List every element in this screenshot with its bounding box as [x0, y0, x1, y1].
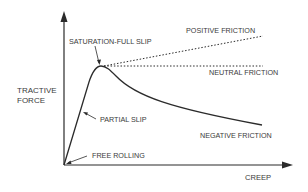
- saturation-label: SATURATION-FULL SLIP: [69, 38, 152, 45]
- x-axis-label: CREEP: [245, 174, 271, 182]
- free-rolling-leader-arrow-icon: [66, 161, 72, 165]
- neutral-friction-label: NEUTRAL FRICTION: [209, 69, 278, 76]
- y-axis-label-line1: TRACTIVE: [17, 86, 57, 96]
- y-axis-label: TRACTIVE FORCE: [17, 86, 57, 106]
- partial-slip-leader-arrow-icon: [83, 112, 88, 116]
- y-axis-arrow-icon: [61, 11, 68, 22]
- free-rolling-label: FREE ROLLING: [92, 152, 145, 159]
- x-axis-arrow-icon: [282, 162, 293, 169]
- saturation-leader-arrow-icon: [97, 60, 101, 66]
- partial-slip-label: PARTIAL SLIP: [100, 116, 147, 123]
- y-axis-label-line2: FORCE: [17, 96, 57, 106]
- negative-friction-label: NEGATIVE FRICTION: [200, 132, 272, 139]
- positive-friction-label: POSITIVE FRICTION: [186, 27, 255, 34]
